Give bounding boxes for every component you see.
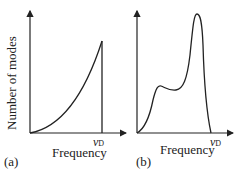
panel-b-x-axis-label: Frequency [160, 142, 215, 158]
y-axis-label: Number of modes [4, 36, 20, 130]
panel-b-real-curve [137, 14, 211, 133]
cutoff-subscript: D [215, 139, 221, 148]
panel-a-debye-curve [30, 41, 102, 133]
panel-b-tag: (b) [136, 154, 151, 170]
panel-a-plot [30, 11, 126, 133]
panel-a-x-axis-label: Frequency [52, 145, 107, 161]
panel-a-tag: (a) [4, 154, 18, 170]
panel-b-plot [137, 11, 233, 133]
